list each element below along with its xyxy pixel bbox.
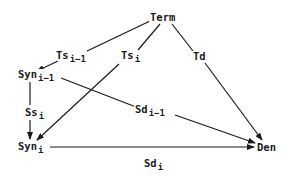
node-term: Term bbox=[149, 12, 176, 23]
node-sd-prev-sub: i−1 bbox=[149, 108, 165, 118]
edge-sd-prev-den bbox=[175, 115, 255, 143]
node-syn-i-label: Syn bbox=[18, 140, 37, 152]
node-ts-i-label: Ts bbox=[121, 49, 134, 61]
node-den-label: Den bbox=[257, 141, 276, 153]
node-syn-prev: Syni−1 bbox=[17, 69, 55, 80]
node-ss-i-sub: i bbox=[39, 111, 44, 121]
node-den: Den bbox=[256, 142, 277, 153]
node-ts-prev-sub: i−1 bbox=[70, 54, 86, 64]
node-sd-prev-label: Sd bbox=[135, 103, 148, 115]
diagram-edges bbox=[0, 0, 294, 181]
node-ts-prev-label: Ts bbox=[56, 49, 69, 61]
node-syn-i-sub: i bbox=[38, 145, 43, 155]
node-syn-prev-sub: i−1 bbox=[38, 73, 54, 83]
node-ts-i: Tsi bbox=[120, 50, 141, 61]
node-td-label: Td bbox=[193, 50, 206, 62]
node-sd-prev: Sdi−1 bbox=[134, 104, 166, 115]
node-ss-i-label: Ss bbox=[25, 106, 38, 118]
node-term-label: Term bbox=[150, 11, 175, 23]
node-sd-i-label: Sd bbox=[144, 157, 157, 169]
node-ss-i: Ssi bbox=[24, 107, 45, 118]
edge-term-ts-i bbox=[138, 24, 160, 50]
node-td: Td bbox=[192, 51, 207, 62]
node-sd-i: Sdi bbox=[143, 158, 164, 169]
node-syn-prev-label: Syn bbox=[18, 68, 37, 80]
node-ts-prev: Tsi−1 bbox=[55, 50, 87, 61]
node-syn-i: Syni bbox=[17, 141, 44, 152]
node-ts-i-sub: i bbox=[135, 54, 140, 64]
node-sd-i-sub: i bbox=[158, 162, 163, 172]
edge-term-td bbox=[172, 24, 193, 51]
